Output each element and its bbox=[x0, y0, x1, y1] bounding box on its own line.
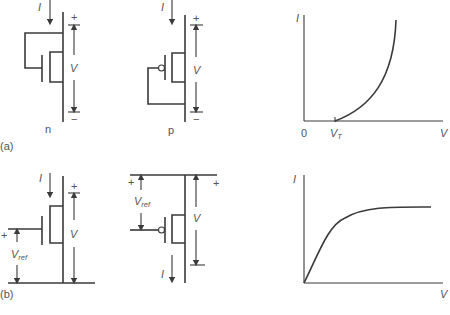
panel-a-label: (a) bbox=[0, 140, 13, 152]
minus-label: − bbox=[71, 113, 77, 125]
plus-label: + bbox=[71, 11, 77, 23]
voltage-label: V bbox=[193, 212, 202, 224]
current-label: I bbox=[39, 172, 42, 184]
iv-curve-a bbox=[335, 20, 396, 121]
gate-inversion-bubble-icon bbox=[159, 227, 165, 233]
graph-b bbox=[304, 175, 443, 283]
threshold-label: VT bbox=[330, 127, 343, 141]
panel-b-label: (b) bbox=[0, 288, 13, 300]
minus-label: − bbox=[193, 113, 199, 125]
current-label: I bbox=[38, 1, 41, 13]
current-label: I bbox=[161, 1, 164, 13]
mosfet-diagram: I + V − n (a) I + V − p I V 0 VT I + V +… bbox=[0, 0, 450, 315]
plus-label: + bbox=[193, 12, 199, 24]
x-axis-label: V bbox=[440, 288, 449, 300]
p-mosfet-vref bbox=[130, 175, 217, 283]
plus-vref-label: + bbox=[1, 229, 7, 241]
gate-inversion-bubble-icon bbox=[159, 65, 165, 71]
voltage-label: V bbox=[70, 62, 79, 74]
plus-label: + bbox=[71, 180, 77, 192]
vref-label: Vref bbox=[134, 195, 151, 209]
vref-label: Vref bbox=[11, 248, 28, 262]
iv-curve-b bbox=[304, 207, 431, 283]
n-mosfet-vref bbox=[8, 173, 95, 283]
voltage-label: V bbox=[70, 228, 79, 240]
voltage-label: V bbox=[193, 64, 202, 76]
graph-a bbox=[304, 15, 443, 122]
current-label: I bbox=[161, 268, 164, 280]
p-type-label: p bbox=[168, 124, 174, 136]
plus-v-label: + bbox=[213, 177, 219, 189]
y-axis-label: I bbox=[296, 12, 299, 24]
x-axis-label: V bbox=[440, 127, 449, 139]
plus-vref-label: + bbox=[128, 176, 134, 188]
n-type-label: n bbox=[45, 123, 51, 135]
origin-label: 0 bbox=[301, 127, 307, 139]
y-axis-label: I bbox=[293, 173, 296, 185]
